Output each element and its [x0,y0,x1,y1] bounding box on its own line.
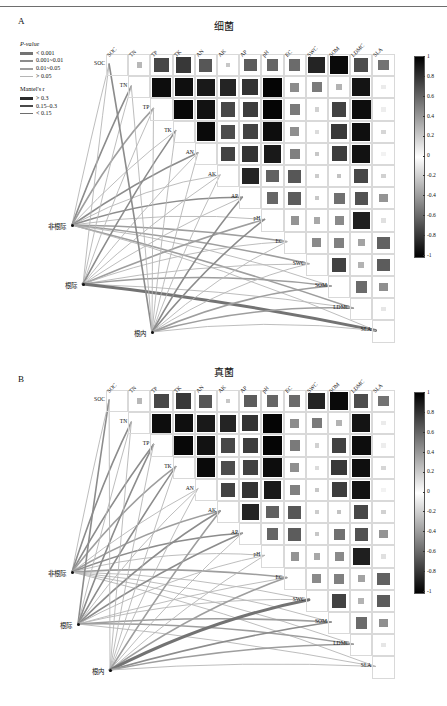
matrix-square [197,436,215,454]
matrix-square [358,239,365,246]
mantel-edge [72,64,109,225]
matrix-square [334,574,344,584]
network-node-label: 非根际 [48,222,66,231]
matrix-square [242,415,258,431]
matrix-cell [306,254,328,276]
matrix-square [315,466,319,470]
matrix-square [315,130,319,134]
matrix-square [379,530,387,538]
matrix-diagonal-label: SWC [289,596,305,602]
matrix-diagonal-label: AK [200,171,216,177]
matrix-square [175,78,193,96]
colorbar-tick-label: 0.2 [427,468,434,474]
matrix-square [288,506,301,519]
matrix-diagonal-label: TN [111,418,127,424]
colorbar-tick-label: 0.6 [427,429,434,435]
matrix-diagonal-label: TK [156,463,172,469]
matrix-square [290,440,300,450]
matrix-square [354,394,368,408]
matrix-diagonal-label: SOM [311,282,327,288]
matrix-square [378,60,389,71]
matrix-square [308,393,325,410]
matrix-cell [150,98,172,120]
matrix-square [378,396,389,407]
matrix-square [355,528,368,541]
matrix-square [154,394,168,408]
matrix-diagonal-label: SOM [311,618,327,624]
matrix-cell [284,568,306,590]
matrix-square [244,59,257,72]
matrix-square [197,79,215,97]
colorbar-tick-label: -1 [427,588,432,594]
matrix-square [154,58,168,72]
matrix-square [244,395,257,408]
colorbar-tick-mark [423,175,425,176]
matrix-square [352,100,371,119]
matrix-square [197,122,216,141]
matrix-diagonal-label: SWC [289,260,305,266]
network-node [71,571,74,574]
matrix-square [356,281,367,292]
matrix-square [226,63,230,67]
matrix-square [354,505,368,519]
matrix-cell [128,76,150,98]
colorbar-tick-label: -0.2 [427,508,436,514]
matrix-square [267,528,279,540]
matrix-square [354,169,368,183]
panel-a-bacteria: A 细菌 P-value < 0.0010.001~0.010.01~0.05>… [0,14,447,362]
matrix-cell [128,412,150,434]
matrix-square [354,58,368,72]
matrix-cell [195,479,217,501]
matrix-square [352,78,370,96]
colorbar-tick-label: 0.6 [427,93,434,99]
colorbar-tick-mark [423,255,425,256]
matrix-square [152,78,171,97]
matrix-square [221,483,235,497]
matrix-square [315,174,319,178]
matrix-cell [284,232,306,254]
matrix-square [337,174,342,179]
matrix-square [176,57,191,72]
matrix-square [266,170,278,182]
matrix-square [263,414,282,433]
matrix-square [264,145,282,163]
matrix-square [288,170,301,183]
matrix-square [242,482,258,498]
top-divider [0,6,447,7]
network-node [77,623,80,626]
matrix-square [314,553,321,560]
colorbar-tick-mark [423,96,425,97]
colorbar-tick-mark [423,392,425,393]
matrix-square [332,482,347,497]
matrix-square [334,193,345,204]
matrix-square [263,78,282,97]
network-node-label: 非根际 [48,569,66,578]
matrix-square [358,262,364,268]
matrix-square [315,510,319,514]
matrix-square [242,504,259,521]
colorbar-tick-label: -0.6 [427,548,436,554]
matrix-square [381,307,385,311]
matrix-square [312,82,322,92]
matrix-cell [150,434,172,456]
matrix-square [353,548,370,565]
matrix-square [377,595,390,608]
matrix-square [308,57,325,74]
matrix-square [312,418,322,428]
matrix-square [290,149,300,159]
matrix-square [267,192,279,204]
matrix-diagonal-label: AP [222,193,238,199]
matrix-square [358,575,365,582]
matrix-square [290,463,299,472]
colorbar-tick-mark [423,136,425,137]
matrix-square [332,258,346,272]
matrix-square [381,85,385,89]
matrix-square [314,217,321,224]
colorbar-gradient [414,56,425,258]
matrix-diagonal-label: LDMC [333,640,349,646]
matrix-cell [217,501,239,523]
matrix-square [243,102,258,117]
network-node-label: 根际 [60,621,72,630]
colorbar-tick-label: -0.6 [427,212,436,218]
matrix-square [263,122,282,141]
